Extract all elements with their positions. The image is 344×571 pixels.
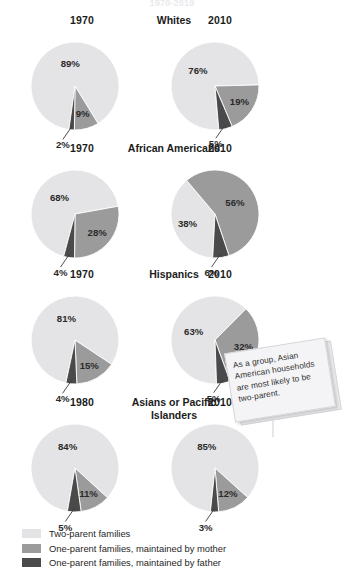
pie-chart-right: 85%12%3% [163, 418, 281, 536]
pie-slice-label: 56% [225, 197, 245, 208]
callout-note-text: As a group, Asian American households ar… [232, 346, 330, 405]
pie-slice-label: 15% [80, 360, 100, 371]
chart-group: 1970African Americans201068%28%4%38%56%6… [0, 142, 344, 168]
pie-chart-right: 38%56%6% [163, 164, 281, 282]
pie-1970: 89%9%2% [23, 36, 141, 154]
legend: Two-parent families One-parent families,… [22, 527, 332, 571]
pie-1980: 84%11%5% [23, 418, 141, 536]
year-label-right: 2010 [196, 142, 244, 154]
pie-slice-label: 19% [230, 96, 250, 107]
legend-swatch-mother [22, 544, 41, 553]
pie-slice-label: 63% [184, 326, 204, 337]
chart-group: 1970Whites201089%9%2%76%19%5% [0, 14, 344, 40]
chart-group: 1970Hispanics201081%15%4%63%32%5% [0, 268, 344, 294]
legend-swatch-father [22, 558, 41, 567]
pie-chart-left: 84%11%5% [23, 418, 141, 536]
legend-item-mother: One-parent families, maintained by mothe… [22, 542, 332, 555]
pie-chart-right: 76%19%5% [163, 36, 281, 154]
pie-slice-label: 28% [88, 227, 108, 238]
legend-swatch-two-parent [22, 529, 41, 538]
year-label-right: 2010 [196, 268, 244, 280]
legend-item-two-parent: Two-parent families [22, 527, 332, 540]
year-label-left: 1970 [58, 142, 106, 154]
pie-chart-left: 68%28%4% [23, 164, 141, 282]
pie-1970: 68%28%4% [23, 164, 141, 282]
pie-2010: 38%56%6% [163, 164, 281, 282]
legend-label-father: One-parent families, maintained by fathe… [49, 557, 221, 568]
pie-slice-label: 84% [58, 441, 78, 452]
pie-chart-left: 89%9%2% [23, 36, 141, 154]
pie-slice-label: 9% [76, 108, 90, 119]
pie-slice-label: 12% [218, 488, 238, 499]
pie-1970: 81%15%4% [23, 290, 141, 408]
pie-slice-label: 81% [57, 313, 77, 324]
pie-2010: 85%12%3% [163, 418, 281, 536]
year-label-right: 2010 [196, 14, 244, 26]
pie-slice-label: 68% [50, 192, 70, 203]
year-label-left: 1970 [58, 268, 106, 280]
pie-chart-left: 81%15%4% [23, 290, 141, 408]
legend-label-two-parent: Two-parent families [49, 528, 130, 539]
year-label-left: 1980 [58, 396, 106, 408]
year-label-left: 1970 [58, 14, 106, 26]
figure-title: 1970-2010 [0, 0, 344, 8]
pie-slice-label: 11% [79, 488, 98, 499]
pie-slice-label: 38% [178, 218, 198, 229]
callout-note: As a group, Asian American households ar… [229, 345, 333, 419]
legend-label-mother: One-parent families, maintained by mothe… [49, 543, 226, 554]
legend-item-father: One-parent families, maintained by fathe… [22, 556, 332, 569]
pie-slice-label: 85% [197, 441, 217, 452]
pie-slice-label: 89% [61, 58, 81, 69]
pie-slice-label: 76% [188, 65, 208, 76]
pie-2010: 76%19%5% [163, 36, 281, 154]
